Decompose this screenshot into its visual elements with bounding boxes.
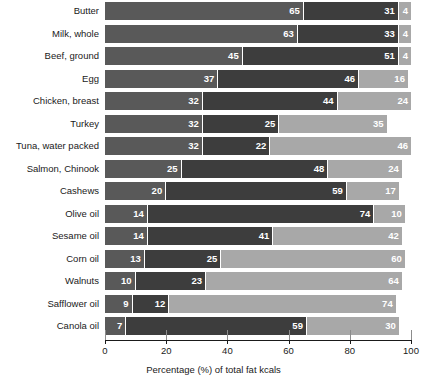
segment-value-label: 9 — [123, 295, 128, 313]
segment-value-label: 12 — [155, 295, 166, 313]
bar-segment: 31 — [304, 2, 399, 20]
plot-area: Butter65314Milk, whole63334Beef, ground4… — [105, 2, 411, 340]
segment-value-label: 14 — [133, 227, 144, 245]
segment-value-label: 46 — [344, 70, 355, 88]
segment-value-label: 59 — [292, 317, 303, 335]
bar-segment: 46 — [270, 137, 411, 155]
bar-segment: 35 — [279, 115, 386, 133]
bar-segment: 17 — [347, 182, 399, 200]
bar-segment: 23 — [136, 272, 206, 290]
segment-value-label: 25 — [265, 115, 276, 133]
bar-segment: 24 — [338, 92, 411, 110]
bar-track: 102364 — [105, 272, 411, 290]
segment-value-label: 48 — [314, 160, 325, 178]
bar-segment: 45 — [105, 47, 243, 65]
bar-segment: 32 — [105, 115, 203, 133]
segment-value-label: 23 — [191, 272, 202, 290]
bar-track: 144142 — [105, 227, 411, 245]
bar-track: 374616 — [105, 70, 411, 88]
category-label: Tuna, water packed — [16, 137, 105, 155]
category-label: Cashews — [60, 182, 105, 200]
tick-label: 0 — [102, 345, 107, 356]
segment-value-label: 60 — [391, 250, 402, 268]
bar-segment: 25 — [105, 160, 182, 178]
bar-segment: 33 — [298, 25, 399, 43]
bar-segment: 59 — [126, 317, 307, 335]
category-label: Corn oil — [66, 250, 105, 268]
bar-segment: 48 — [182, 160, 329, 178]
segment-value-label: 46 — [397, 137, 408, 155]
bar-segment: 4 — [399, 25, 411, 43]
bar-track: 132560 — [105, 250, 411, 268]
tick-mark — [350, 340, 351, 344]
x-axis-title: Percentage (%) of total fat kcals — [0, 364, 427, 375]
category-label: Sesame oil — [52, 227, 105, 245]
bar-segment: 12 — [133, 295, 170, 313]
tick-label: 20 — [161, 345, 172, 356]
bar-segment: 30 — [307, 317, 399, 335]
segment-value-label: 20 — [152, 182, 163, 200]
segment-value-label: 45 — [228, 47, 239, 65]
segment-value-label: 64 — [388, 272, 399, 290]
bar-row: Butter65314 — [105, 2, 411, 20]
segment-value-label: 35 — [373, 115, 384, 133]
segment-value-label: 65 — [289, 2, 300, 20]
segment-value-label: 24 — [388, 160, 399, 178]
segment-value-label: 74 — [360, 205, 371, 223]
segment-value-label: 51 — [384, 47, 395, 65]
segment-value-label: 44 — [323, 92, 334, 110]
tick-label: 100 — [403, 345, 419, 356]
bar-segment: 74 — [169, 295, 395, 313]
tick-label: 80 — [345, 345, 356, 356]
gridline-stub — [289, 330, 290, 340]
bar-row: Milk, whole63334 — [105, 25, 411, 43]
bar-segment: 25 — [203, 115, 280, 133]
category-label: Turkey — [70, 115, 105, 133]
tick-label: 60 — [283, 345, 294, 356]
bar-segment: 41 — [148, 227, 273, 245]
gridline-stub — [411, 330, 412, 340]
bar-track: 322535 — [105, 115, 411, 133]
gridline-stub — [350, 330, 351, 340]
bar-segment: 63 — [105, 25, 298, 43]
bar-track: 75930 — [105, 317, 411, 335]
segment-value-label: 25 — [167, 160, 178, 178]
bar-track: 63334 — [105, 25, 411, 43]
segment-value-label: 4 — [403, 2, 408, 20]
segment-value-label: 33 — [384, 25, 395, 43]
segment-value-label: 41 — [259, 227, 270, 245]
gridline-stub — [227, 330, 228, 340]
bar-segment: 16 — [359, 70, 408, 88]
segment-value-label: 10 — [121, 272, 132, 290]
bar-segment: 44 — [203, 92, 338, 110]
bar-segment: 42 — [273, 227, 402, 245]
bar-row: Salmon, Chinook254824 — [105, 160, 411, 178]
segment-value-label: 74 — [382, 295, 393, 313]
bar-track: 65314 — [105, 2, 411, 20]
category-label: Walnuts — [65, 272, 105, 290]
bar-row: Tuna, water packed322246 — [105, 137, 411, 155]
bar-segment: 13 — [105, 250, 145, 268]
bar-segment: 32 — [105, 137, 203, 155]
bar-segment: 24 — [328, 160, 401, 178]
stacked-bar-chart: Butter65314Milk, whole63334Beef, ground4… — [0, 0, 427, 384]
bar-segment: 51 — [243, 47, 399, 65]
bar-row: Canola oil75930 — [105, 317, 411, 335]
category-label: Chicken, breast — [33, 92, 105, 110]
segment-value-label: 7 — [117, 317, 122, 335]
bar-track: 254824 — [105, 160, 411, 178]
segment-value-label: 32 — [188, 115, 199, 133]
segment-value-label: 17 — [385, 182, 396, 200]
tick-mark — [289, 340, 290, 344]
segment-value-label: 31 — [384, 2, 395, 20]
segment-value-label: 24 — [397, 92, 408, 110]
bar-row: Chicken, breast324424 — [105, 92, 411, 110]
bar-row: Walnuts102364 — [105, 272, 411, 290]
bar-track: 147410 — [105, 205, 411, 223]
bar-segment: 65 — [105, 2, 304, 20]
bar-track: 205917 — [105, 182, 411, 200]
segment-value-label: 37 — [204, 70, 215, 88]
category-label: Egg — [82, 70, 105, 88]
bar-row: Corn oil132560 — [105, 250, 411, 268]
segment-value-label: 16 — [394, 70, 405, 88]
